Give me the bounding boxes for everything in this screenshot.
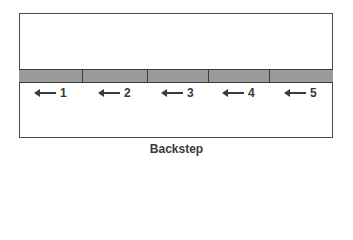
segment-1 <box>19 70 83 82</box>
arrow-left-icon <box>38 92 56 94</box>
diagram-caption: Backstep <box>0 142 353 156</box>
step-marker-4: 4 <box>226 86 255 100</box>
arrow-left-icon <box>288 92 306 94</box>
arrow-left-icon <box>226 92 244 94</box>
segment-2 <box>83 70 148 82</box>
step-marker-3: 3 <box>165 86 194 100</box>
segment-4 <box>209 70 270 82</box>
segment-3 <box>148 70 209 82</box>
step-marker-1: 1 <box>38 86 67 100</box>
arrow-left-icon <box>165 92 183 94</box>
step-label: 5 <box>310 86 317 100</box>
step-marker-2: 2 <box>102 86 131 100</box>
segment-5 <box>270 70 333 82</box>
step-label: 4 <box>248 86 255 100</box>
step-label: 3 <box>187 86 194 100</box>
step-label: 2 <box>124 86 131 100</box>
arrow-left-icon <box>102 92 120 94</box>
step-label: 1 <box>60 86 67 100</box>
step-marker-5: 5 <box>288 86 317 100</box>
weld-band <box>19 69 333 83</box>
